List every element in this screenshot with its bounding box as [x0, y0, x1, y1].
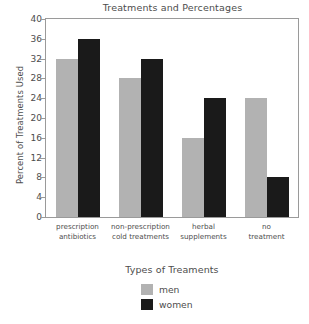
y-axis-tick-label: 12 — [12, 153, 42, 163]
chart-legend: menwomen — [45, 282, 299, 312]
bar-chart-figure: Treatments and Percentages Percent of Tr… — [0, 0, 309, 324]
plot-area — [45, 18, 299, 218]
bar-men-3 — [245, 98, 267, 217]
legend-swatch-men — [141, 284, 153, 295]
y-axis-tick-label: 24 — [12, 93, 42, 103]
chart-title: Treatments and Percentages — [45, 2, 300, 13]
legend-label-women: women — [159, 299, 203, 310]
legend-label-men: men — [159, 284, 203, 295]
x-axis-category-label: notreatment — [235, 222, 298, 241]
y-axis-tick-label: 20 — [12, 113, 42, 123]
x-axis-category-label-line: supplements — [172, 232, 235, 242]
x-axis-category-label-line: antibiotics — [46, 232, 109, 242]
bar-men-1 — [119, 78, 141, 217]
y-axis-tick-label: 16 — [12, 133, 42, 143]
x-axis-category-label-line: no — [235, 222, 298, 232]
y-axis-tick-label: 8 — [12, 172, 42, 182]
bar-men-2 — [182, 138, 204, 217]
y-axis-tick-label: 28 — [12, 73, 42, 83]
x-axis-category-label: prescriptionantibiotics — [46, 222, 109, 241]
y-axis-tick-label: 40 — [12, 14, 42, 24]
x-axis-category-label-line: cold treatments — [109, 232, 172, 242]
y-axis-tick-label: 32 — [12, 54, 42, 64]
bar-women-2 — [204, 98, 226, 217]
x-axis-category-label-line: non-prescription — [109, 222, 172, 232]
x-axis-category-label-line: herbal — [172, 222, 235, 232]
x-axis-category-label-line: prescription — [46, 222, 109, 232]
y-axis-tick-label: 36 — [12, 34, 42, 44]
x-axis-category-label: herbalsupplements — [172, 222, 235, 241]
legend-swatch-women — [141, 299, 153, 310]
x-axis-title: Types of Treaments — [45, 264, 299, 275]
x-axis-category-label-line: treatment — [235, 232, 298, 242]
y-axis-tick-label: 0 — [12, 212, 42, 222]
x-axis-category-label: non-prescriptioncold treatments — [109, 222, 172, 241]
legend-item-women: women — [45, 297, 299, 312]
bar-women-3 — [267, 177, 289, 217]
legend-item-men: men — [45, 282, 299, 297]
bar-women-0 — [78, 39, 100, 217]
bar-men-0 — [56, 59, 78, 217]
y-axis-tick-label: 4 — [12, 192, 42, 202]
bar-women-1 — [141, 59, 163, 217]
